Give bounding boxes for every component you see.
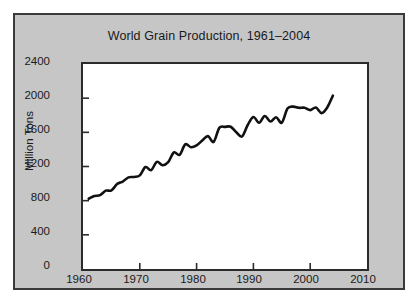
plot-area <box>81 62 369 271</box>
y-tick-label-0: 0 <box>0 259 50 271</box>
y-tick-label-2400: 2400 <box>0 55 50 67</box>
data-line-chart <box>83 64 367 269</box>
x-tick-label-1990: 1990 <box>219 273 279 285</box>
x-tick-label-1960: 1960 <box>49 273 109 285</box>
y-tick-label-1200: 1200 <box>0 157 50 169</box>
x-tick-label-2010: 2010 <box>333 273 393 285</box>
chart-title: World Grain Production, 1961–2004 <box>15 29 403 43</box>
chart-figure: World Grain Production, 1961–2004 Millio… <box>13 13 405 290</box>
y-tick-label-400: 400 <box>0 225 50 237</box>
x-tick-label-1980: 1980 <box>163 273 223 285</box>
x-tick-label-2000: 2000 <box>276 273 336 285</box>
series-line-world-grain-production <box>89 96 333 199</box>
y-tick-label-1600: 1600 <box>0 123 50 135</box>
x-tick-label-1970: 1970 <box>106 273 166 285</box>
y-axis-title: Million Tons <box>23 86 35 196</box>
y-axis-ticks <box>83 98 89 235</box>
x-axis-ticks <box>140 263 310 269</box>
y-tick-label-2000: 2000 <box>0 89 50 101</box>
y-tick-label-800: 800 <box>0 191 50 203</box>
